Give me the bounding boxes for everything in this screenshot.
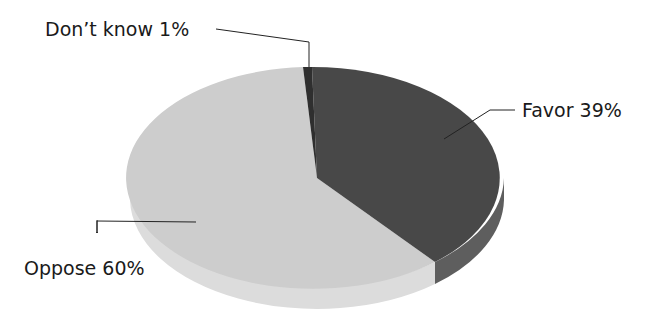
label-oppose: Oppose 60%	[24, 257, 145, 279]
pie-top	[126, 67, 500, 289]
label-dont-know: Don’t know 1%	[45, 18, 189, 40]
pie-chart: Don’t know 1% Favor 39% Oppose 60%	[0, 0, 664, 323]
label-favor: Favor 39%	[522, 99, 622, 121]
leader-line-dont-know	[216, 29, 309, 67]
